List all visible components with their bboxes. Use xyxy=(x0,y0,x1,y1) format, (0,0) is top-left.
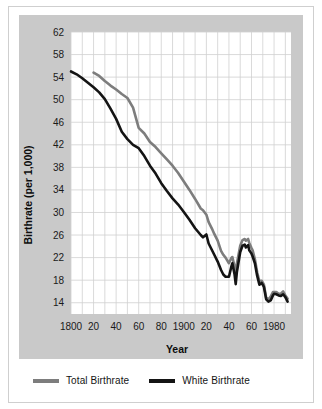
y-tick-label: 14 xyxy=(53,297,65,308)
y-tick-label: 18 xyxy=(53,275,65,286)
chart-figure: 14182226303438424650545862 1800204060801… xyxy=(0,0,322,409)
x-tick-label: 1980 xyxy=(263,321,286,332)
y-tick-label: 58 xyxy=(53,49,65,60)
plot-area: 14182226303438424650545862 1800204060801… xyxy=(19,15,303,359)
legend-item-label: Total Birthrate xyxy=(66,375,129,386)
legend-swatch-icon xyxy=(149,379,175,383)
x-tick-label: 1900 xyxy=(173,321,196,332)
x-axis-title: Year xyxy=(166,343,188,355)
y-tick-label: 62 xyxy=(53,27,65,38)
y-tick-label: 26 xyxy=(53,230,65,241)
y-tick-label: 34 xyxy=(53,184,65,195)
y-tick-label: 22 xyxy=(53,252,65,263)
x-axis-tick-labels: 18002040608019002040601980 xyxy=(60,321,286,332)
legend-swatch-icon xyxy=(33,379,59,383)
chart-legend: Total BirthrateWhite Birthrate xyxy=(19,365,303,396)
x-tick-label: 80 xyxy=(156,321,168,332)
y-tick-label: 54 xyxy=(53,72,65,83)
legend-item-label: White Birthrate xyxy=(182,375,250,386)
y-axis-title: Birthrate (per 1,000) xyxy=(22,145,34,244)
x-tick-label: 20 xyxy=(88,321,100,332)
x-tick-label: 40 xyxy=(223,321,235,332)
y-tick-label: 50 xyxy=(53,94,65,105)
y-tick-label: 38 xyxy=(53,162,65,173)
y-tick-label: 46 xyxy=(53,117,65,128)
x-tick-label: 40 xyxy=(111,321,123,332)
x-tick-label: 1800 xyxy=(60,321,83,332)
chart-frame: 14182226303438424650545862 1800204060801… xyxy=(8,6,314,403)
y-tick-label: 30 xyxy=(53,207,65,218)
y-axis-tick-labels: 14182226303438424650545862 xyxy=(53,27,65,309)
legend-item[interactable]: White Birthrate xyxy=(149,375,250,386)
x-tick-label: 20 xyxy=(201,321,213,332)
y-tick-label: 42 xyxy=(53,139,65,150)
legend-item[interactable]: Total Birthrate xyxy=(33,375,129,386)
x-tick-label: 60 xyxy=(246,321,258,332)
x-tick-label: 60 xyxy=(133,321,145,332)
birthrate-line-chart: 14182226303438424650545862 1800204060801… xyxy=(19,15,303,359)
